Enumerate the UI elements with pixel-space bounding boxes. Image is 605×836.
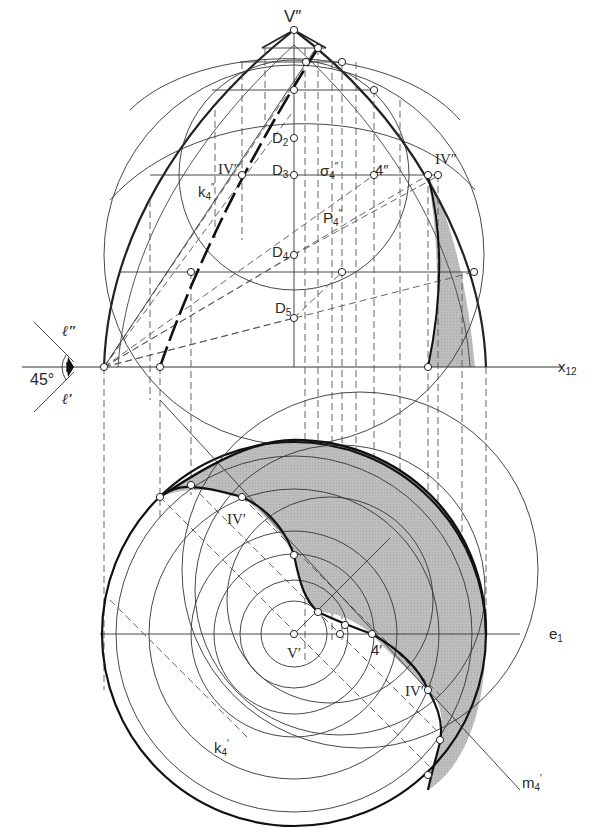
label-apex-plan: V′ (287, 646, 301, 661)
label-iv-plan-top: IV′ (227, 512, 246, 527)
label-sigma4: σ4″ (320, 162, 338, 181)
label-d3: D3 (272, 162, 288, 180)
label-angle-45: 45° (30, 372, 54, 388)
plan-view (100, 392, 538, 826)
label-axis-x12: x12 (558, 359, 577, 377)
label-axis-e1: e1 (549, 626, 563, 644)
label-light-front: ℓ″ (62, 324, 77, 339)
label-k4-front: k4″ (198, 183, 215, 202)
diagram-canvas (0, 0, 605, 836)
label-k4-plan: k4′ (214, 739, 229, 758)
label-m4-plan: m4′ (522, 774, 542, 793)
label-d5: D5 (275, 300, 291, 318)
tangent-ray (104, 45, 318, 367)
label-p4: P4″ (323, 209, 342, 228)
label-iv-plan-right: IV′ (405, 684, 424, 699)
label-d2: D2 (272, 130, 288, 148)
label-light-plan: ℓ′ (62, 392, 73, 407)
label-d4: D4 (272, 244, 288, 262)
label-iv-front-right: IV″ (435, 152, 457, 167)
label-apex-front: V″ (284, 8, 301, 25)
label-point4-plan: 4′ (371, 642, 382, 657)
label-iv-front-left: IV″ (218, 162, 240, 177)
label-point4-front: 4″ (375, 162, 389, 177)
